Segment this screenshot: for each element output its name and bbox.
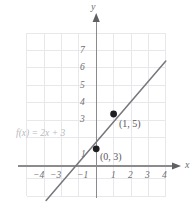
x-tick-minus-3: −3 <box>50 171 61 181</box>
y-tick-1: 1 <box>81 150 86 160</box>
point-label-1-5: (1, 5) <box>119 119 141 129</box>
y-tick-3: 3 <box>80 115 85 125</box>
graph-figure: 7 6 5 4 3 1 −1 −4 −3 1 2 3 4 x y (1, 5) … <box>0 0 196 203</box>
x-axis-arrow <box>172 162 181 169</box>
y-axis-arrow <box>93 13 100 22</box>
function-equation-label: f(x) = 2x + 3 <box>16 129 65 139</box>
y-tick-5: 5 <box>80 81 85 91</box>
x-axis-label: x <box>185 160 189 170</box>
y-tick-7: 7 <box>80 46 85 56</box>
y-tick-minus-1: −1 <box>77 171 88 181</box>
y-tick-6: 6 <box>80 63 85 73</box>
point-label-0-3: (0, 3) <box>100 152 122 162</box>
x-tick-minus-4: −4 <box>33 171 44 181</box>
x-tick-3: 3 <box>145 171 150 181</box>
x-tick-4: 4 <box>162 171 167 181</box>
point-marker-0-3 <box>93 145 100 152</box>
y-tick-4: 4 <box>80 98 85 108</box>
x-tick-2: 2 <box>128 171 133 181</box>
x-tick-1: 1 <box>111 171 116 181</box>
point-marker-1-5 <box>110 111 117 118</box>
y-axis-label: y <box>91 2 95 12</box>
